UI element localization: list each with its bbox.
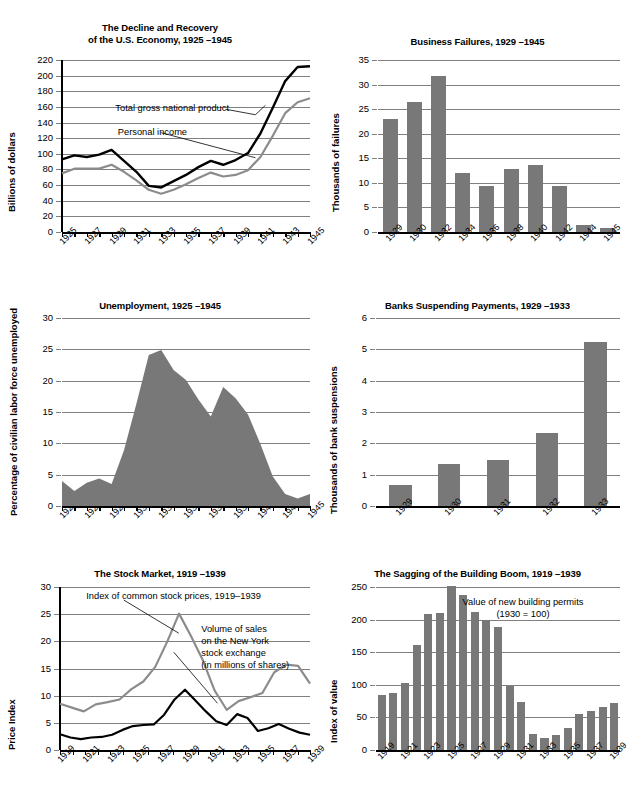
y-tick-mark [370,652,375,653]
annotation-leader-line [226,109,256,114]
sales-volume-line [60,690,310,739]
x-tick-mark [99,506,100,511]
y-tick-mark [372,60,377,61]
y-tick-label: 4 [327,376,367,386]
y-tick-label: 180 [13,86,53,96]
y-tick-mark [54,750,59,751]
plot-area-decline-recovery: 0204060801001201401601802002201925192719… [62,60,310,232]
bar [506,686,514,750]
x-tick-mark [223,506,224,511]
x-tick-mark [173,750,174,755]
y-tick-label: 200 [13,71,53,81]
plot-area-banks-suspending: 012345619291930193119321933 [376,318,620,506]
y-tick-mark [370,506,375,507]
x-tick-mark [223,232,224,237]
chart-decline-recovery: The Decline and Recovery of the U.S. Eco… [0,22,320,277]
annotation-sales-volume: Volume of sales on the New York stock ex… [201,623,289,671]
bar [424,614,432,750]
y-tick-mark [370,349,375,350]
y-tick-label: 100 [327,680,367,690]
y-tick-mark [372,134,377,135]
y-tick-label: 1 [327,470,367,480]
bar [584,342,606,506]
y-tick-label: 250 [327,582,367,592]
y-tick-label: 0 [13,227,53,237]
y-tick-label: 80 [13,164,53,174]
y-tick-mark [370,381,375,382]
y-tick-label: 3 [327,407,367,417]
y-tick-label: 20 [329,129,369,139]
series-layer [62,60,310,232]
plot-area-business-failures: 0510152025303519291930193219341936193819… [378,60,620,232]
bar [431,76,446,232]
y-tick-label: 40 [13,196,53,206]
chart-title-stock-market: The Stock Market, 1919 –1939 [0,568,320,580]
y-tick-label: 15 [13,407,53,417]
y-tick-mark [372,158,377,159]
bar [378,695,386,750]
y-tick-label: 30 [11,582,51,592]
annotation-gnp: Total gross national product [115,102,229,114]
y-tick-label: 2 [327,438,367,448]
y-tick-mark [370,412,375,413]
y-tick-label: 100 [13,149,53,159]
y-tick-mark [372,183,377,184]
y-tick-mark [370,443,375,444]
y-tick-label: 25 [11,609,51,619]
y-tick-mark [56,232,61,233]
x-tick-mark [74,506,75,511]
y-tick-label: 150 [327,647,367,657]
chart-title-line-2: of the U.S. Economy, 1925 –1945 [0,34,320,46]
chart-title-unemployment: Unemployment, 1925 –1945 [0,300,320,312]
y-tick-label: 0 [327,745,367,755]
x-tick-mark [149,232,150,237]
chart-title-banks-suspending: Banks Suspending Payments, 1929 –1933 [320,300,635,312]
y-tick-label: 10 [11,691,51,701]
y-tick-label: 25 [329,104,369,114]
gridline [378,85,620,86]
bar [436,613,444,750]
bar [482,620,490,750]
chart-title-building-boom: The Sagging of the Building Boom, 1919 –… [320,568,635,580]
y-tick-mark [370,318,375,319]
chart-title-line-1: The Decline and Recovery [0,22,320,34]
y-tick-label: 0 [13,501,53,511]
y-tick-mark [372,109,377,110]
y-tick-label: 30 [13,313,53,323]
y-tick-mark [56,318,61,319]
x-tick-mark [248,506,249,511]
chart-banks-suspending: Banks Suspending Payments, 1929 –1933 Th… [320,292,635,557]
y-tick-label: 6 [327,313,367,323]
bar [471,612,479,750]
x-tick-mark [273,506,274,511]
x-tick-mark [149,506,150,511]
y-tick-label: 5 [329,202,369,212]
annotation-leader-line [124,600,179,633]
y-tick-label: 160 [13,102,53,112]
y-tick-mark [370,750,375,751]
y-tick-label: 30 [329,80,369,90]
plot-area-building-boom: 0501001502002501919192119231925192719291… [376,587,620,750]
plot-area-stock-market: 0510152025301919192119231925192719291931… [60,587,310,750]
x-tick-mark [74,232,75,237]
x-tick-mark [148,750,149,755]
annotation-building-permits: Value of new building permits (1930 = 10… [463,596,584,620]
y-tick-mark [370,685,375,686]
bar [383,119,398,232]
y-tick-mark [56,381,61,382]
y-tick-label: 35 [329,55,369,65]
figure-sheet: The Decline and Recovery of the U.S. Eco… [0,0,635,804]
chart-business-failures: Business Failures, 1929 –1945 Thousands … [320,22,635,277]
y-tick-label: 15 [11,664,51,674]
y-tick-label: 20 [13,376,53,386]
annotation-personal-income: Personal income [118,126,187,138]
y-tick-mark [372,232,377,233]
y-tick-label: 120 [13,133,53,143]
chart-building-boom: The Sagging of the Building Boom, 1919 –… [320,565,635,804]
x-tick-mark [123,750,124,755]
bar [407,102,422,232]
chart-stock-market: The Stock Market, 1919 –1939 Price Index… [0,565,320,804]
x-tick-mark [273,750,274,755]
y-tick-label: 220 [13,55,53,65]
y-tick-mark [372,85,377,86]
